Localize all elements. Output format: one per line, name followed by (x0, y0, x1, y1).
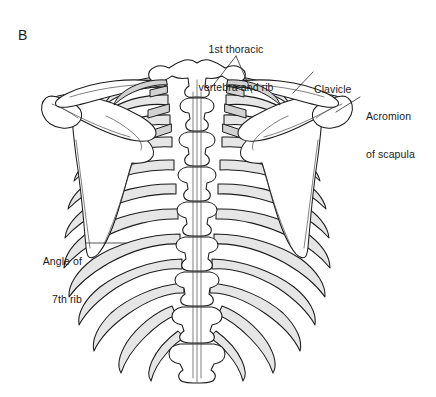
label-rib-angle-line2: 7th rib (8, 293, 82, 306)
label-rib-angle-line1: Angle of (8, 255, 82, 268)
anatomical-figure-panel-b: B 1st thoracic vertebra and rib Clavicle… (0, 0, 436, 397)
label-acromion-of-scapula: Acromion of scapula (366, 85, 436, 185)
panel-letter: B (18, 27, 27, 43)
label-1st-thoracic-vertebra-and-rib: 1st thoracic vertebra and rib (177, 18, 295, 118)
label-clavicle: Clavicle (314, 58, 374, 121)
label-thoracic-line1: 1st thoracic (177, 43, 295, 56)
label-acromion-line1: Acromion (366, 110, 436, 123)
label-clavicle-line1: Clavicle (314, 83, 374, 96)
label-angle-of-7th-rib: Angle of 7th rib (8, 230, 82, 330)
label-thoracic-line2: vertebra and rib (177, 81, 295, 94)
label-acromion-line2: of scapula (366, 148, 436, 161)
